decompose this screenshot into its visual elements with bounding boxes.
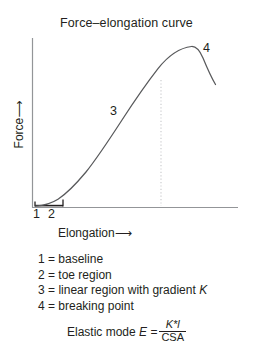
force-elongation-figure: Force–elongation curve Force⟶ Elongation…: [0, 0, 253, 353]
y-axis-label-text: Force: [12, 118, 26, 149]
formula-numerator: K*l: [159, 319, 186, 331]
marker-3-linear-region: 3: [110, 105, 117, 118]
formula-denominator: CSA: [159, 331, 186, 344]
y-axis-arrow-icon: ⟶: [12, 102, 26, 118]
x-axis-label-text: Elongation: [58, 226, 115, 240]
marker-1-baseline: 1: [33, 208, 40, 221]
gradient-symbol: K: [199, 283, 207, 297]
plot-area: [0, 0, 253, 215]
legend-item: 3 = linear region with gradient K: [38, 283, 253, 299]
force-elongation-curve: [36, 46, 216, 206]
x-axis-label: Elongation⟶: [58, 226, 132, 240]
y-axis-label: Force⟶: [12, 90, 26, 160]
legend-item: 2 = toe region: [38, 268, 253, 284]
x-axis-arrow-icon: ⟶: [115, 226, 132, 240]
formula-equals: =: [150, 325, 157, 339]
legend-list: 1 = baseline 2 = toe region 3 = linear r…: [38, 252, 253, 314]
formula-fraction: K*lCSA: [159, 319, 186, 344]
formula-lead: Elastic mode: [67, 325, 136, 339]
marker-4-breaking-point: 4: [203, 42, 210, 55]
formula-variable: E: [139, 325, 147, 339]
elastic-modulus-formula: Elastic mode E =K*lCSA: [0, 320, 253, 345]
legend-item: 4 = breaking point: [38, 299, 253, 315]
legend-item: 1 = baseline: [38, 252, 253, 268]
legend-item-text: 2 = toe region: [38, 268, 112, 282]
legend-item-text: 3 = linear region with gradient K: [38, 283, 207, 297]
marker-2-toe-region: 2: [48, 208, 55, 221]
